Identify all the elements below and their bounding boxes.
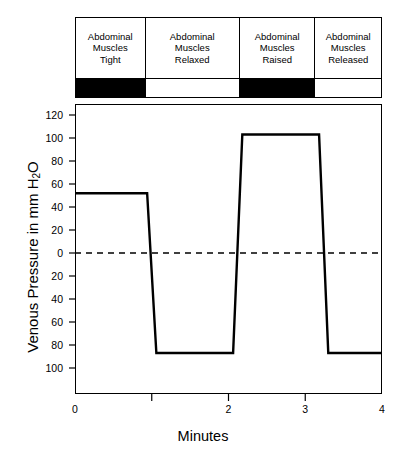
condition-bar-1 xyxy=(146,79,240,97)
condition-bar-0 xyxy=(76,79,146,97)
condition-cell-1: Abdominal Muscles Relaxed xyxy=(146,18,240,78)
condition-label-row: Abdominal Muscles Tight Abdominal Muscle… xyxy=(76,18,381,78)
condition-cell-0-line1: Abdominal xyxy=(88,31,133,43)
y-axis-title-prefix: Venous Pressure in mm H xyxy=(24,179,41,353)
condition-cell-1-line3: Relaxed xyxy=(170,54,215,66)
condition-cell-2-line2: Muscles xyxy=(255,42,300,54)
condition-bar-2 xyxy=(240,79,316,97)
chart-figure: Abdominal Muscles Tight Abdominal Muscle… xyxy=(0,0,406,455)
condition-cell-3-line3: Released xyxy=(326,54,371,66)
condition-header: Abdominal Muscles Tight Abdominal Muscle… xyxy=(75,17,382,98)
y-axis-title: Venous Pressure in mm H2O xyxy=(24,142,42,372)
plot-area xyxy=(75,104,382,394)
y-tick-label-0: 120 xyxy=(29,109,63,121)
condition-cell-1-line1: Abdominal xyxy=(170,31,215,43)
x-tick-label-4: 4 xyxy=(372,403,392,415)
x-axis-title: Minutes xyxy=(0,428,406,444)
condition-cell-3-line2: Muscles xyxy=(326,42,371,54)
x-tick-marks xyxy=(152,394,306,401)
y-axis-title-subscript: 2 xyxy=(31,173,42,179)
condition-cell-3-line1: Abdominal xyxy=(326,31,371,43)
condition-cell-0: Abdominal Muscles Tight xyxy=(76,18,146,78)
condition-cell-0-line2: Muscles xyxy=(88,42,133,54)
condition-cell-3: Abdominal Muscles Released xyxy=(315,18,381,78)
condition-bar-3 xyxy=(315,79,381,97)
condition-cell-2-line3: Raised xyxy=(255,54,300,66)
condition-cell-0-line3: Tight xyxy=(88,54,133,66)
condition-bar-row xyxy=(76,78,381,97)
x-tick-label-2: 2 xyxy=(219,403,239,415)
condition-cell-2-line1: Abdominal xyxy=(255,31,300,43)
condition-cell-1-line2: Muscles xyxy=(170,42,215,54)
x-tick-label-3: 3 xyxy=(295,403,315,415)
y-axis-title-suffix: O xyxy=(24,161,41,173)
condition-cell-2: Abdominal Muscles Raised xyxy=(240,18,316,78)
x-tick-label-0: 0 xyxy=(65,403,85,415)
